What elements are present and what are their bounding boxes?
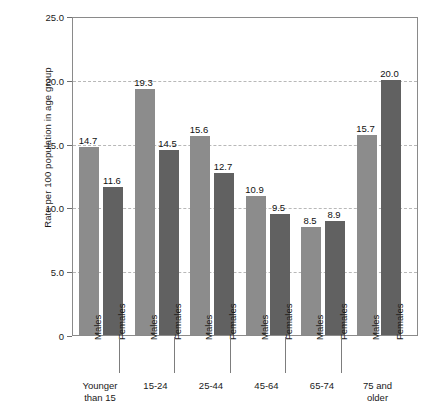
group-separator — [230, 337, 231, 373]
x-axis-sex-label-males: Males — [203, 315, 214, 340]
x-axis-sex-label-females: Females — [283, 304, 294, 340]
group-separator — [119, 337, 120, 373]
y-tick-label-10.0: 10.0 — [20, 203, 64, 214]
x-axis-sex-label-females: Females — [338, 304, 349, 340]
bar-value-label: 10.9 — [239, 184, 271, 195]
group-separator — [174, 337, 175, 373]
x-axis-group-label: 15-24 — [124, 380, 188, 392]
group-separator — [285, 337, 286, 373]
x-axis-group-label: 25-44 — [179, 380, 243, 392]
x-axis-sex-label-females: Females — [227, 304, 238, 340]
bar-value-label: 8.9 — [318, 209, 350, 220]
x-axis-sex-label-females: Females — [172, 304, 183, 340]
x-axis-group-label: 45-64 — [235, 380, 299, 392]
bar-value-label: 9.5 — [263, 202, 295, 213]
bar-value-label: 19.3 — [128, 77, 160, 88]
bar-15-24-males — [135, 89, 155, 335]
x-axis-group-label: 65-74 — [290, 380, 354, 392]
y-tick-mark-25.0 — [67, 17, 72, 18]
y-tick-label-25.0: 25.0 — [20, 12, 64, 23]
x-axis-sex-label-males: Males — [370, 315, 381, 340]
x-axis-sex-label-females: Females — [116, 304, 127, 340]
x-axis-sex-label-males: Males — [314, 315, 325, 340]
bar-75-and-older-females — [381, 80, 401, 335]
y-tick-mark-10.0 — [67, 208, 72, 209]
y-tick-label-0: 0 — [20, 331, 64, 342]
y-tick-mark-20.0 — [67, 81, 72, 82]
x-axis-sex-label-males: Males — [148, 315, 159, 340]
bar-value-label: 20.0 — [374, 68, 406, 79]
x-axis-group-label: 75 and older — [346, 380, 410, 403]
bar-chart: Rate per 100 population in age group 25.… — [0, 0, 445, 411]
bar-value-label: 14.5 — [152, 138, 184, 149]
x-axis-sex-label-males: Males — [92, 315, 103, 340]
y-tick-label-15.0: 15.0 — [20, 140, 64, 151]
x-axis-sex-label-males: Males — [259, 315, 270, 340]
gridline-20.0 — [73, 81, 417, 82]
bar-value-label: 11.6 — [96, 175, 128, 186]
x-axis-group-label: Younger than 15 — [68, 380, 132, 403]
bar-value-label: 15.7 — [350, 123, 382, 134]
y-tick-label-5.0: 5.0 — [20, 267, 64, 278]
y-tick-mark-0 — [67, 336, 72, 337]
bar-75-and-older-males — [357, 135, 377, 335]
bar-value-label: 14.7 — [72, 135, 104, 146]
y-tick-mark-5.0 — [67, 272, 72, 273]
group-separator — [341, 337, 342, 373]
bar-value-label: 12.7 — [207, 161, 239, 172]
x-axis-sex-label-females: Females — [394, 304, 405, 340]
y-tick-label-20.0: 20.0 — [20, 76, 64, 87]
bar-value-label: 15.6 — [183, 124, 215, 135]
